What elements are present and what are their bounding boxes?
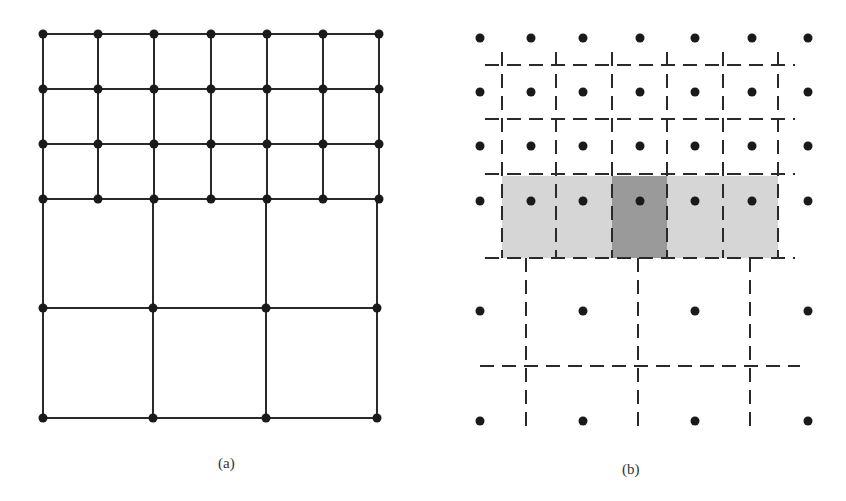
cell-center-node bbox=[636, 88, 645, 97]
cell-center-node bbox=[527, 197, 536, 206]
mesh-node bbox=[39, 304, 48, 313]
mesh-node bbox=[263, 195, 272, 204]
mesh-node bbox=[373, 414, 382, 423]
panel-b-control-volumes bbox=[476, 34, 813, 431]
mesh-node bbox=[375, 85, 384, 94]
mesh-node bbox=[39, 30, 48, 39]
mesh-figure bbox=[0, 0, 846, 501]
mesh-node bbox=[262, 414, 271, 423]
panel-a-label: (a) bbox=[218, 455, 235, 472]
cell-center-node bbox=[579, 197, 588, 206]
mesh-node bbox=[207, 195, 216, 204]
cell-center-node bbox=[748, 142, 757, 151]
cell-center-node bbox=[804, 88, 813, 97]
mesh-node bbox=[262, 304, 271, 313]
cell-center-node bbox=[636, 197, 645, 206]
cell-center-node bbox=[804, 307, 813, 316]
panel-a-refined-mesh bbox=[39, 30, 384, 423]
cell-center-node bbox=[804, 197, 813, 206]
cell-center-node bbox=[579, 417, 588, 426]
cell-center-node bbox=[527, 142, 536, 151]
mesh-node bbox=[149, 304, 158, 313]
cell-center-node bbox=[636, 34, 645, 43]
cell-center-node bbox=[804, 34, 813, 43]
mesh-node bbox=[39, 414, 48, 423]
cell-center-node bbox=[476, 142, 485, 151]
mesh-node bbox=[94, 140, 103, 149]
cell-center-node bbox=[579, 88, 588, 97]
mesh-node bbox=[375, 140, 384, 149]
cell-center-node bbox=[804, 142, 813, 151]
mesh-node bbox=[150, 30, 159, 39]
cell-center-node bbox=[691, 197, 700, 206]
mesh-node bbox=[319, 195, 328, 204]
mesh-node bbox=[319, 85, 328, 94]
cell-center-node bbox=[476, 197, 485, 206]
mesh-node bbox=[207, 85, 216, 94]
cell-center-node bbox=[579, 307, 588, 316]
mesh-node bbox=[150, 195, 159, 204]
mesh-node bbox=[150, 140, 159, 149]
mesh-node bbox=[263, 140, 272, 149]
cell-center-node bbox=[691, 142, 700, 151]
cell-center-node bbox=[476, 88, 485, 97]
mesh-node bbox=[373, 304, 382, 313]
cell-center-node bbox=[476, 417, 485, 426]
cell-center-node bbox=[527, 34, 536, 43]
cell-center-node bbox=[636, 142, 645, 151]
cell-center-node bbox=[691, 307, 700, 316]
cell-center-node bbox=[691, 34, 700, 43]
mesh-node bbox=[207, 30, 216, 39]
mesh-node bbox=[207, 140, 216, 149]
mesh-node bbox=[150, 85, 159, 94]
cell-center-node bbox=[476, 307, 485, 316]
mesh-node bbox=[94, 85, 103, 94]
shaded-cell-light bbox=[556, 176, 612, 258]
mesh-node bbox=[263, 30, 272, 39]
shaded-cell-dark bbox=[612, 176, 667, 258]
mesh-node bbox=[149, 414, 158, 423]
mesh-node bbox=[39, 140, 48, 149]
mesh-node bbox=[39, 85, 48, 94]
cell-center-node bbox=[748, 34, 757, 43]
mesh-node bbox=[39, 195, 48, 204]
mesh-node bbox=[94, 195, 103, 204]
cell-center-node bbox=[691, 88, 700, 97]
cell-center-node bbox=[579, 34, 588, 43]
mesh-node bbox=[263, 85, 272, 94]
panel-b-label: (b) bbox=[622, 461, 640, 478]
cell-center-node bbox=[579, 142, 588, 151]
cell-center-node bbox=[691, 417, 700, 426]
cell-center-node bbox=[748, 197, 757, 206]
mesh-node bbox=[319, 30, 328, 39]
mesh-node bbox=[94, 30, 103, 39]
cell-center-node bbox=[748, 88, 757, 97]
mesh-node bbox=[375, 30, 384, 39]
cell-center-node bbox=[804, 417, 813, 426]
shaded-cell-light bbox=[502, 176, 556, 258]
cell-center-node bbox=[527, 88, 536, 97]
cell-center-node bbox=[476, 34, 485, 43]
mesh-node bbox=[319, 140, 328, 149]
mesh-node bbox=[375, 195, 384, 204]
